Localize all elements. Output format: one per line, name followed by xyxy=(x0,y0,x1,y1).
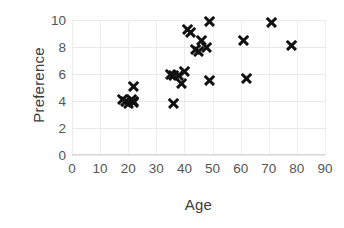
gridline-horizontal xyxy=(72,101,325,102)
data-point-marker xyxy=(203,74,216,87)
y-axis-tick-label: 6 xyxy=(44,67,66,82)
x-axis-tick-label: 10 xyxy=(85,161,115,176)
data-point-marker xyxy=(116,93,129,106)
plot-area xyxy=(72,20,325,155)
x-axis-tick-label: 0 xyxy=(57,161,87,176)
gridline-vertical xyxy=(184,20,185,155)
y-axis-tick-label: 4 xyxy=(44,94,66,109)
x-axis-line xyxy=(72,154,325,155)
x-axis-title: Age xyxy=(72,196,325,213)
data-point-marker xyxy=(184,26,197,39)
gridline-vertical xyxy=(72,20,73,155)
data-point-marker xyxy=(285,39,298,52)
gridline-vertical xyxy=(241,20,242,155)
scatter-chart: Preference 0246810 0102030405060708090 A… xyxy=(0,0,344,228)
data-point-marker xyxy=(167,69,180,82)
x-axis-tick-label: 70 xyxy=(254,161,284,176)
x-axis-tick-labels: 0102030405060708090 xyxy=(72,161,325,181)
data-point-marker xyxy=(125,93,138,106)
data-point-marker xyxy=(167,97,180,110)
data-point-marker xyxy=(189,43,202,56)
data-point-marker xyxy=(265,16,278,29)
y-axis-tick-labels: 0246810 xyxy=(42,20,66,155)
gridline-vertical xyxy=(325,20,326,155)
data-point-marker xyxy=(127,96,140,109)
data-point-marker xyxy=(195,34,208,47)
gridline-horizontal xyxy=(72,128,325,129)
gridline-vertical xyxy=(128,20,129,155)
data-point-marker xyxy=(181,23,194,36)
data-point-marker xyxy=(172,69,185,82)
gridline-vertical xyxy=(100,20,101,155)
gridline-horizontal xyxy=(72,155,325,156)
y-axis-tick-label: 8 xyxy=(44,40,66,55)
data-point-marker xyxy=(203,15,216,28)
gridline-vertical xyxy=(297,20,298,155)
x-axis-tick-label: 60 xyxy=(226,161,256,176)
y-axis-tick-label: 2 xyxy=(44,121,66,136)
x-axis-tick-label: 20 xyxy=(113,161,143,176)
data-point-marker xyxy=(175,77,188,90)
gridline-horizontal xyxy=(72,74,325,75)
x-axis-tick-label: 40 xyxy=(169,161,199,176)
data-point-marker xyxy=(127,80,140,93)
gridline-horizontal xyxy=(72,20,325,21)
x-axis-tick-label: 30 xyxy=(141,161,171,176)
gridline-vertical xyxy=(213,20,214,155)
x-axis-tick-label: 80 xyxy=(282,161,312,176)
gridline-horizontal xyxy=(72,47,325,48)
gridline-vertical xyxy=(269,20,270,155)
data-point-marker xyxy=(237,34,250,47)
y-axis-tick-label: 10 xyxy=(44,13,66,28)
gridline-vertical xyxy=(156,20,157,155)
x-axis-tick-label: 90 xyxy=(310,161,340,176)
x-axis-tick-label: 50 xyxy=(198,161,228,176)
